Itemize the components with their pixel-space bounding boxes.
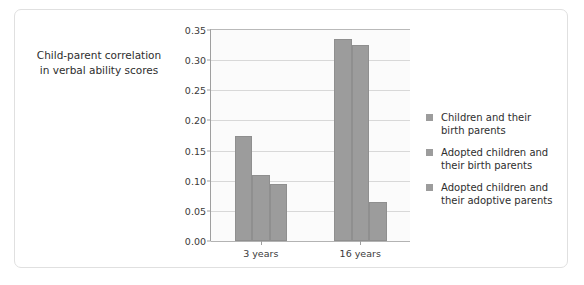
gridline	[211, 90, 410, 91]
y-axis-tick-mark	[207, 60, 211, 61]
y-axis-tick-label: 0.30	[185, 55, 206, 66]
gridline	[211, 120, 410, 121]
y-axis-tick-label: 0.05	[185, 205, 206, 216]
bar	[270, 184, 288, 241]
legend-item: Adopted children andtheir birth parents	[426, 146, 576, 172]
legend-item-label-line-1: Children and their	[441, 111, 531, 124]
y-axis-tick-label: 0.25	[185, 85, 206, 96]
x-axis-tick-mark	[360, 241, 361, 245]
y-axis-tick-label: 0.00	[185, 236, 206, 247]
legend-item-label-line-2: birth parents	[441, 124, 531, 137]
bar	[252, 175, 270, 241]
legend-item-label-line-1: Adopted children and	[441, 181, 552, 194]
y-axis-tick-mark	[207, 120, 211, 121]
x-axis-tick-label: 3 years	[243, 248, 278, 259]
chart-card: Child-parent correlation in verbal abili…	[14, 9, 568, 268]
bar	[352, 45, 370, 241]
y-axis-tick-mark	[207, 30, 211, 31]
x-axis-tick-label: 16 years	[340, 248, 381, 259]
legend: Children and theirbirth parentsAdopted c…	[426, 111, 576, 216]
bar	[369, 202, 387, 241]
legend-swatch-icon	[426, 184, 433, 191]
legend-item-label-line-2: their adoptive parents	[441, 194, 552, 207]
gridline	[211, 60, 410, 61]
legend-item: Adopted children andtheir adoptive paren…	[426, 181, 576, 207]
legend-item-label: Adopted children andtheir adoptive paren…	[441, 181, 552, 207]
y-axis-tick-mark	[207, 210, 211, 211]
legend-swatch-icon	[426, 114, 433, 121]
y-axis-tick-mark	[207, 241, 211, 242]
legend-item: Children and theirbirth parents	[426, 111, 576, 137]
plot-area: 0.000.050.100.150.200.250.300.35 3 years…	[210, 29, 410, 241]
legend-item-label: Children and theirbirth parents	[441, 111, 531, 137]
y-axis-tick-label: 0.35	[185, 25, 206, 36]
bar	[334, 39, 352, 241]
legend-item-label-line-2: their birth parents	[441, 159, 548, 172]
legend-swatch-icon	[426, 149, 433, 156]
y-axis-tick-label: 0.20	[185, 115, 206, 126]
y-axis-title-line-2: in verbal ability scores	[23, 63, 175, 78]
y-axis-tick-label: 0.15	[185, 145, 206, 156]
y-axis-tick-label: 0.10	[185, 175, 206, 186]
bar	[235, 136, 253, 242]
x-axis-tick-mark	[261, 241, 262, 245]
gridline	[211, 241, 410, 242]
y-axis-title: Child-parent correlation in verbal abili…	[23, 48, 175, 78]
legend-item-label: Adopted children andtheir birth parents	[441, 146, 548, 172]
y-axis-tick-mark	[207, 90, 211, 91]
y-axis-title-line-1: Child-parent correlation	[23, 48, 175, 63]
y-axis-tick-mark	[207, 150, 211, 151]
legend-item-label-line-1: Adopted children and	[441, 146, 548, 159]
y-axis-tick-mark	[207, 180, 211, 181]
